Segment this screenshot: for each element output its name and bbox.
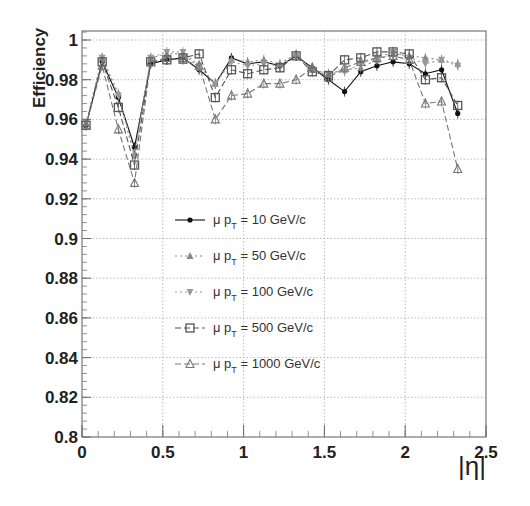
legend-entry: μ pT = 100 GeV/c [175, 284, 314, 303]
legend-label: μ pT = 10 GeV/c [213, 212, 306, 231]
series-line [86, 54, 458, 153]
legend-label: μ pT = 50 GeV/c [213, 248, 306, 267]
y-tick-label: 0.82 [45, 388, 78, 407]
y-tick-label: 1 [69, 31, 78, 50]
legend-entry: μ pT = 500 GeV/c [175, 320, 314, 339]
x-tick-label: 2 [400, 443, 409, 462]
marker-triangle-up [187, 252, 194, 259]
y-axis-label: Efficiency [30, 27, 49, 108]
x-axis-tick-labels: 00.511.522.5 [77, 443, 498, 462]
legend-entry: μ pT = 1000 GeV/c [175, 356, 321, 375]
data-series [82, 47, 462, 188]
y-axis-tick-labels: 0.80.820.840.860.880.90.920.940.960.981 [45, 31, 79, 447]
y-tick-label: 0.96 [45, 110, 78, 129]
legend-label: μ pT = 500 GeV/c [213, 320, 314, 339]
x-tick-label: 1.5 [313, 443, 337, 462]
y-tick-label: 0.94 [45, 150, 79, 169]
legend-label: μ pT = 1000 GeV/c [213, 356, 321, 375]
legend-entry: μ pT = 10 GeV/c [175, 212, 306, 231]
y-tick-label: 0.8 [54, 428, 78, 447]
marker-circle [455, 111, 460, 116]
y-tick-label: 0.98 [45, 71, 78, 90]
series-1 [83, 49, 462, 158]
series-line [86, 52, 458, 157]
marker-circle [187, 217, 192, 222]
y-tick-label: 0.9 [54, 230, 78, 249]
series-0 [83, 51, 460, 152]
marker-circle [342, 89, 347, 94]
marker-circle [439, 67, 444, 72]
x-tick-label: 1 [239, 443, 248, 462]
y-tick-label: 0.84 [45, 349, 79, 368]
x-tick-label: 0 [77, 443, 86, 462]
y-tick-label: 0.92 [45, 190, 78, 209]
x-axis-label: |η| [458, 451, 486, 481]
marker-triangle-down [187, 289, 194, 296]
legend-entry: μ pT = 50 GeV/c [175, 248, 306, 267]
series-3 [82, 47, 462, 170]
axis-ticks [82, 32, 486, 437]
plot-frame [82, 31, 486, 437]
x-tick-label: 0.5 [151, 443, 175, 462]
grid-lines [82, 31, 486, 437]
y-tick-label: 0.88 [45, 269, 78, 288]
marker-triangle-down [422, 61, 429, 68]
series-line [86, 56, 458, 147]
y-tick-label: 0.86 [45, 309, 78, 328]
legend: μ pT = 10 GeV/cμ pT = 50 GeV/cμ pT = 100… [175, 212, 321, 375]
efficiency-chart: 0.80.820.840.860.880.90.920.940.960.981 … [0, 0, 530, 506]
legend-label: μ pT = 100 GeV/c [213, 284, 314, 303]
